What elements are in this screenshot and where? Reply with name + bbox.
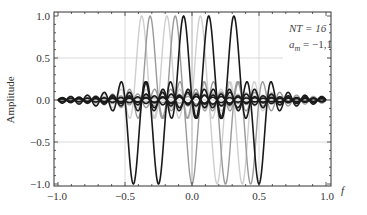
x-axis-label: f: [341, 184, 346, 196]
y-tick-label: −0.5: [30, 136, 50, 148]
x-tick-label: 1.0: [320, 190, 334, 202]
x-tick-label: −0.5: [115, 190, 135, 202]
sinc-pulse-chart: 1.0 0.5 0.0 −0.5 −1.0 −1.0 −0.5 0.0 0.5 …: [0, 0, 367, 215]
x-tick-label: 0.5: [252, 190, 266, 202]
y-tick-label: 0.0: [36, 94, 50, 106]
y-tick-labels: 1.0 0.5 0.0 −0.5 −1.0: [30, 10, 50, 190]
x-tick-label: 0.0: [185, 190, 199, 202]
x-tick-labels: −1.0 −0.5 0.0 0.5 1.0: [47, 190, 334, 202]
y-tick-label: 0.5: [36, 52, 50, 64]
annotation-nt: NT = 16: [288, 22, 327, 34]
y-tick-label: −1.0: [30, 178, 50, 190]
y-tick-label: 1.0: [36, 10, 50, 22]
y-axis-label: Amplitude: [4, 76, 16, 123]
x-tick-label: −1.0: [47, 190, 67, 202]
